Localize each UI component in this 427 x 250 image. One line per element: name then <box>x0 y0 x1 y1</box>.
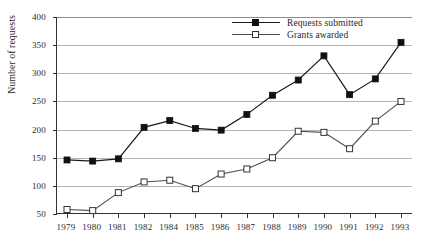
data-point-requests-1990 <box>321 53 327 59</box>
data-point-requests-1981 <box>115 156 121 162</box>
legend-item-grants-awarded: Grants awarded <box>232 29 382 41</box>
data-point-grants-1984 <box>167 177 173 183</box>
data-point-grants-1981 <box>115 190 121 196</box>
data-point-grants-1989 <box>295 128 301 134</box>
chart-figure: Number of requests 501001502002503003504… <box>0 0 427 250</box>
data-point-grants-1979 <box>64 207 70 213</box>
data-point-grants-1993 <box>398 98 404 104</box>
legend-marker-open-square-icon <box>232 29 280 41</box>
legend-item-requests-submitted: Requests submitted <box>232 17 382 29</box>
y-tick-label-100: 100 <box>0 182 46 191</box>
data-point-requests-1989 <box>295 77 301 83</box>
data-point-requests-1979 <box>64 157 70 163</box>
data-point-grants-1982 <box>141 179 147 185</box>
y-tick-label-300: 300 <box>0 69 46 78</box>
x-axis-tick-labels: 1979198019811982198419851986198719881989… <box>56 215 412 245</box>
series-container <box>57 17 413 214</box>
y-tick-label-350: 350 <box>0 41 46 50</box>
data-point-requests-1985 <box>192 125 198 131</box>
data-point-requests-1987 <box>244 111 250 117</box>
x-tick-label-1993: 1993 <box>380 223 420 232</box>
y-tick-label-150: 150 <box>0 154 46 163</box>
y-axis-title-container: Number of requests <box>8 44 24 184</box>
chart-legend: Requests submitted Grants awarded <box>232 17 382 43</box>
data-point-requests-1980 <box>90 158 96 164</box>
y-tick-label-250: 250 <box>0 97 46 106</box>
data-point-requests-1988 <box>270 92 276 98</box>
data-point-grants-1992 <box>372 118 378 124</box>
data-point-grants-1991 <box>347 146 353 152</box>
data-point-requests-1993 <box>398 39 404 45</box>
y-tick-label-200: 200 <box>0 126 46 135</box>
data-point-grants-1987 <box>244 166 250 172</box>
data-point-grants-1986 <box>218 171 224 177</box>
data-point-grants-1980 <box>90 208 96 214</box>
data-point-requests-1982 <box>141 124 147 130</box>
data-point-grants-1988 <box>270 155 276 161</box>
data-point-requests-1986 <box>218 127 224 133</box>
data-point-requests-1984 <box>167 118 173 124</box>
data-point-requests-1992 <box>372 76 378 82</box>
legend-label-grants-awarded: Grants awarded <box>280 30 348 40</box>
legend-marker-filled-square-icon <box>232 17 280 29</box>
plot-area <box>56 17 412 214</box>
series-line-requests-submitted <box>67 42 401 161</box>
legend-label-requests-submitted: Requests submitted <box>280 18 363 28</box>
y-tick-label-400: 400 <box>0 13 46 22</box>
y-tick-label-50: 50 <box>0 210 46 219</box>
data-point-requests-1991 <box>347 92 353 98</box>
data-point-grants-1985 <box>192 186 198 192</box>
data-point-grants-1990 <box>321 129 327 135</box>
